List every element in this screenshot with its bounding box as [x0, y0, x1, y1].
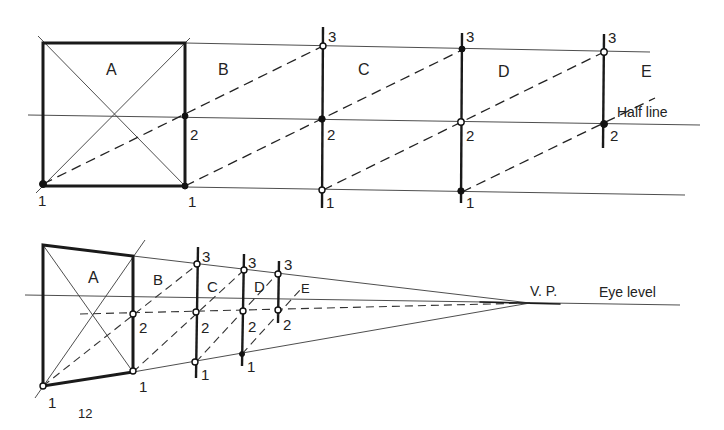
top-line [185, 43, 650, 52]
section-label-d: D [254, 278, 265, 295]
point-label-2: 2 [248, 318, 256, 335]
point-label-1: 1 [48, 394, 56, 411]
point-label-1: 1 [201, 366, 209, 383]
eye-level-label: Eye level [599, 284, 656, 300]
point-1 [130, 368, 136, 374]
point-label-3: 3 [466, 28, 474, 45]
point-3 [241, 267, 247, 273]
point-label-3: 3 [248, 254, 256, 271]
section-label-d: D [498, 63, 510, 80]
point-label-2: 2 [139, 319, 147, 336]
point-3 [320, 43, 326, 49]
top-diagram: A B C D E 1 1 1 1 2 2 2 2 3 3 3 Half lin… [28, 27, 700, 211]
half-line [28, 115, 700, 125]
point-3 [194, 261, 200, 267]
dashed-diagonal-2 [133, 270, 244, 372]
point-2 [240, 308, 246, 314]
point-1 [319, 187, 325, 193]
point-2 [193, 309, 199, 315]
point-label-1: 1 [188, 193, 196, 210]
point-3 [601, 49, 607, 55]
point-label-2: 2 [327, 126, 335, 143]
point-label-3: 3 [608, 29, 616, 46]
point-label-2: 2 [610, 127, 618, 144]
section-label-a: A [88, 269, 99, 286]
point-label-1: 1 [466, 194, 474, 211]
point-label-3: 3 [284, 256, 292, 273]
half-line-label: Half line [617, 104, 668, 120]
point-2 [601, 121, 608, 128]
point-1 [40, 383, 46, 389]
section-label-e: E [301, 281, 310, 296]
square-diagonal-1 [38, 36, 185, 186]
point-2 [319, 116, 325, 122]
point-label-1: 1 [38, 192, 46, 209]
point-1 [40, 181, 47, 188]
dashed-diagonal-1 [43, 264, 198, 386]
post-d [461, 33, 462, 203]
trapezoid-a [43, 245, 133, 386]
section-label-b: B [153, 271, 163, 288]
point-label-2: 2 [466, 127, 474, 144]
section-label-b: B [218, 61, 229, 78]
point-label-3: 3 [202, 248, 210, 265]
vanishing-point-label: V. P. [530, 283, 557, 299]
point-label-3: 3 [328, 28, 336, 45]
top-converging-line [133, 256, 530, 303]
point-1 [240, 352, 245, 357]
section-label-c: C [358, 61, 370, 78]
point-2 [130, 311, 136, 317]
page-number: 12 [78, 406, 92, 421]
point-3 [275, 271, 281, 277]
point-1 [458, 188, 464, 194]
perspective-diagram: A B C D E 1 1 1 1 2 2 2 2 3 3 3 Half lin… [0, 0, 724, 430]
point-1 [182, 183, 188, 189]
point-label-2: 2 [283, 316, 291, 333]
eye-level-line [25, 295, 680, 305]
point-label-2: 2 [201, 319, 209, 336]
point-1 [192, 359, 198, 365]
point-3 [459, 46, 465, 52]
dashed-half-line [80, 303, 530, 314]
point-label-1: 1 [247, 358, 255, 375]
point-label-1: 1 [139, 378, 147, 395]
trapezoid-diagonal-1 [43, 245, 133, 372]
point-2 [182, 113, 188, 119]
section-label-e: E [641, 63, 652, 80]
section-label-c: C [207, 278, 218, 295]
point-label-1: 1 [326, 194, 334, 211]
section-label-a: A [106, 61, 117, 78]
point-2 [458, 119, 464, 125]
bottom-diagram: A B C D E 1 1 1 1 2 2 2 2 3 3 3 V. P. Ey… [25, 240, 680, 411]
vanishing-point-mark [480, 302, 560, 304]
point-2 [275, 307, 281, 313]
point-label-2: 2 [190, 126, 198, 143]
bottom-line [185, 187, 685, 195]
